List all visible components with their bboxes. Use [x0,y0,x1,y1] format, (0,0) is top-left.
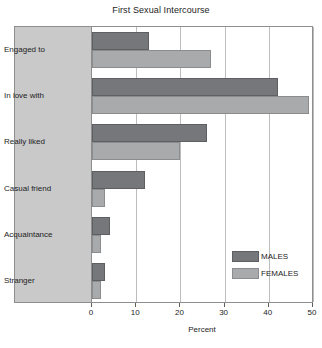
legend-swatch-males [232,251,259,262]
bar-females-acquaintance [92,235,101,253]
x-tick-mark [312,303,313,307]
x-tick-mark [179,303,180,307]
x-tick-label: 20 [175,308,184,317]
category-label: Casual friend [4,183,76,192]
x-tick-label: 0 [89,308,93,317]
legend-label: FEMALES [261,269,298,278]
gridline [225,27,226,302]
x-tick-mark [224,303,225,307]
bar-males-in-love-with [92,78,278,96]
bar-males-acquaintance [92,217,110,235]
category-label: Engaged to [4,45,76,54]
bar-males-engaged-to [92,32,149,50]
chart-legend: MALESFEMALES [232,249,298,283]
x-tick-label: 30 [219,308,228,317]
x-axis-title: Percent [91,325,313,334]
x-tick-mark [91,303,92,307]
x-tick-mark [135,303,136,307]
legend-swatch-females [232,268,259,279]
legend-item-males: MALES [232,249,298,263]
bar-females-engaged-to [92,50,211,68]
legend-item-females: FEMALES [232,266,298,280]
bar-males-really-liked [92,124,207,142]
x-tick-label: 40 [263,308,272,317]
x-tick-label: 50 [308,308,317,317]
chart-title: First Sexual Intercourse [0,5,322,15]
category-label: Acquaintance [4,229,76,238]
category-label: Stranger [4,275,76,284]
bar-females-stranger [92,281,101,299]
bar-males-casual-friend [92,171,145,189]
x-tick-label: 10 [131,308,140,317]
gridline [313,27,314,302]
category-label: Really liked [4,137,76,146]
bar-females-in-love-with [92,96,309,114]
bar-females-casual-friend [92,189,105,207]
gridline [180,27,181,302]
category-label-panel [14,26,91,303]
legend-label: MALES [261,252,288,261]
gridline [136,27,137,302]
bar-males-stranger [92,263,105,281]
category-label: In love with [4,91,76,100]
x-tick-mark [268,303,269,307]
chart-figure: First Sexual Intercourse Percent MALESFE… [0,0,322,348]
bar-females-really-liked [92,142,180,160]
